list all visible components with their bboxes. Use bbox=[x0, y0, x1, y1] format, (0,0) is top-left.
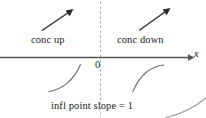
label-inflection-point-caption: infl point slope = 1 bbox=[51, 101, 133, 112]
curve-concave-up bbox=[49, 65, 81, 92]
slope-arrow-left bbox=[42, 9, 74, 31]
label-axis-x: x bbox=[194, 49, 199, 60]
label-conc-down: conc down bbox=[117, 35, 164, 46]
concavity-diagram: conc up conc down 0 x infl point slope =… bbox=[0, 0, 206, 118]
curve-concave-down bbox=[133, 65, 164, 92]
label-origin: 0 bbox=[95, 60, 100, 71]
curve-fragment-corner bbox=[166, 98, 206, 118]
label-conc-up: conc up bbox=[31, 35, 65, 46]
slope-arrow-right bbox=[139, 8, 171, 31]
